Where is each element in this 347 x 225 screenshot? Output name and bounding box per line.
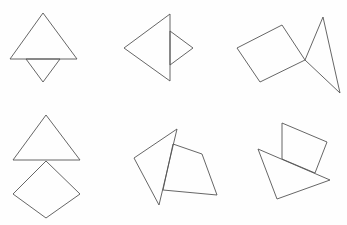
panel-5 [134,129,217,205]
quadrilateral-shape [163,144,217,195]
quadrilateral-shape [13,161,80,218]
panel-1 [10,13,77,82]
triangle-shape [124,14,170,81]
panel-2 [124,14,193,81]
triangle-shape [258,149,330,199]
quadrilateral-shape [237,25,305,82]
triangle-shape [10,13,77,59]
triangle-shape [26,59,60,82]
shapes-figure [0,0,347,225]
triangle-shape [134,129,177,205]
panel-3 [237,17,340,93]
triangle-shape [305,17,340,93]
triangle-shape [13,115,80,160]
triangle-shape [170,31,193,65]
panel-6 [258,123,330,199]
panel-4 [13,115,80,218]
quadrilateral-shape [282,123,327,173]
